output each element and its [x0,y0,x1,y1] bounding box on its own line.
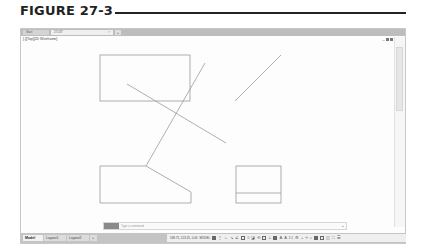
restore-icon[interactable] [386,38,389,41]
3d-osnap-icon[interactable] [262,236,266,240]
lineweight-icon[interactable]: ≡ [247,236,249,240]
polar-icon[interactable]: ↘ [230,236,233,240]
customization-menu-icon[interactable]: ☰ [337,236,341,240]
layout-tab-layout2[interactable]: Layout2 [67,235,89,241]
add-layout-button[interactable]: + [90,235,97,241]
dynamic-ucs-icon[interactable]: ⊥ [268,236,271,240]
model-space-button[interactable]: MODEL [200,236,211,240]
command-line-buttons[interactable] [104,223,119,229]
minimize-icon[interactable]: — [382,38,385,42]
layout-tab-model[interactable]: Model [23,235,43,241]
annotation-scale-icon[interactable]: A [284,236,287,240]
scrollbar-thumb[interactable] [396,47,403,111]
ortho-icon[interactable]: ∟ [224,236,228,240]
close-viewport-icon[interactable] [390,38,393,41]
vertical-scrollbar[interactable] [394,37,405,227]
object-snap-icon[interactable] [241,236,245,240]
viewport-controls: — [382,38,393,42]
tab-drawing-label: 27-03* [54,30,63,34]
command-history-arrow-icon[interactable]: ▴ [342,223,344,229]
command-line[interactable]: Type a command ▴ [103,222,347,230]
transparency-icon[interactable]: ◪ [251,236,255,240]
auto-scale-icon[interactable]: A [279,236,282,240]
selection-cycling-icon[interactable]: ⟲ [257,236,260,240]
status-tray: 168.75, 123.25, 0.00 MODEL ⋮ ∟ ↘ ∠ ≡ ◪ ⟲… [167,234,406,242]
hardware-acceleration-icon[interactable]: ◫ [326,236,330,240]
scale-label[interactable]: 1:1 [289,236,293,240]
tab-drawing[interactable]: 27-03* × [51,30,113,35]
figure-rule [115,12,406,14]
snap-icon[interactable]: ⋮ [218,236,222,240]
viewport-label[interactable]: [-][Top][2D Wireframe] [23,37,57,41]
close-icon[interactable]: × [108,30,110,35]
tab-start[interactable]: Start [23,30,49,35]
command-input[interactable]: Type a command [121,223,144,229]
workspace-gear-icon[interactable]: ⚙ [295,236,299,240]
tab-start-label: Start [26,30,32,34]
status-bar: Model Layout1 Layout2 + 168.75, 123.25, … [21,233,405,243]
units-icon[interactable]: ⊹ [305,236,308,240]
osnap-tracking-icon[interactable]: ∠ [235,236,239,240]
lock-ui-icon[interactable] [314,236,318,240]
isolate-objects-icon[interactable] [320,236,324,240]
new-tab-button[interactable]: + [115,30,121,35]
autocad-window: Start 27-03* × + [-][Top][2D Wireframe] … [20,28,406,244]
figure-title: FIGURE 27-3 [20,3,113,18]
quick-properties-icon[interactable]: ⌕ [310,236,312,240]
annotation-monitor-icon[interactable]: + [301,236,303,240]
grid-icon[interactable] [212,236,216,240]
layout-tab-layout1[interactable]: Layout1 [44,235,66,241]
annotation-visibility-icon[interactable] [273,236,277,240]
coordinates-readout[interactable]: 168.75, 123.25, 0.00 [170,236,198,240]
file-tab-bar: Start 27-03* × + [21,29,405,36]
clean-screen-icon[interactable]: ⛶ [332,236,335,240]
